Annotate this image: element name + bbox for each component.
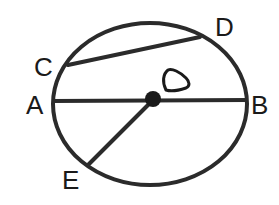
circle-diagram: A B C D E (0, 0, 279, 205)
label-c: C (34, 52, 53, 82)
center-dot (145, 91, 161, 107)
radius-oe (88, 103, 150, 165)
label-b: B (251, 90, 268, 120)
label-d: D (215, 12, 234, 42)
center-mark-icon (164, 69, 189, 90)
label-a: A (26, 90, 44, 120)
label-e: E (62, 165, 79, 195)
